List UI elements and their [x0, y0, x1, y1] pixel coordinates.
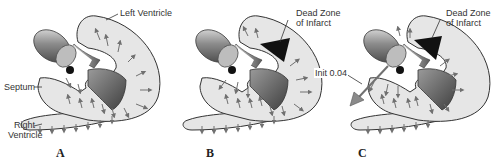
label-dead-zone-1: Dead Zone — [446, 8, 491, 18]
label-septum: Septum — [4, 82, 35, 92]
label-dead-zone-2: of Infarct — [446, 18, 481, 28]
label-init-vector: Init 0.04 — [314, 68, 348, 78]
panel-a: Left Ventricle Septum Right Ventricle A — [0, 0, 168, 164]
panel-letter-a: A — [56, 146, 65, 161]
label-right-ventricle-1: Right — [14, 120, 35, 130]
panel-b: Dead Zone of Infarct B — [166, 0, 334, 164]
panel-c: Dead Zone of Infarct Init 0.04 C — [334, 0, 502, 164]
label-right-ventricle-2: Ventricle — [8, 130, 43, 140]
label-left-ventricle: Left Ventricle — [120, 8, 172, 18]
panel-letter-b: B — [206, 146, 214, 161]
label-dead-zone-2: of Infarct — [296, 18, 331, 28]
panel-letter-c: C — [358, 146, 367, 161]
